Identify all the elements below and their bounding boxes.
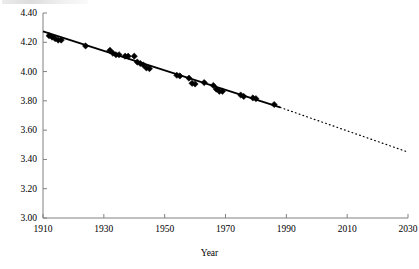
y-axis-tick-label: 3.00	[7, 213, 37, 223]
x-axis-tick-label: 1970	[206, 224, 246, 234]
data-point-marker	[131, 53, 137, 59]
trend-line-dotted	[280, 107, 408, 152]
x-axis-tick-label: 1910	[23, 224, 63, 234]
x-axis-tick-label: 2030	[388, 224, 419, 234]
x-axis-tick-label: 1930	[84, 224, 124, 234]
y-axis-tick-label: 3.40	[7, 154, 37, 164]
x-axis-title: Year	[0, 248, 419, 258]
data-point-marker	[201, 79, 207, 85]
chart-figure: 3.003.203.403.603.804.004.204.40 1910193…	[0, 0, 419, 269]
y-axis-tick-label: 4.20	[7, 37, 37, 47]
y-axis-tick-label: 4.40	[7, 8, 37, 18]
x-axis-tick-label: 1990	[266, 224, 306, 234]
y-axis-tick-label: 3.80	[7, 96, 37, 106]
y-axis-tick-label: 3.60	[7, 125, 37, 135]
data-point-marker	[186, 75, 192, 81]
y-axis-tick-label: 4.00	[7, 67, 37, 77]
y-axis-tick-label: 3.20	[7, 184, 37, 194]
x-axis-tick-label: 2010	[327, 224, 367, 234]
axes-layer	[43, 13, 408, 218]
series-layer	[43, 31, 408, 152]
x-axis-tick-label: 1950	[145, 224, 185, 234]
